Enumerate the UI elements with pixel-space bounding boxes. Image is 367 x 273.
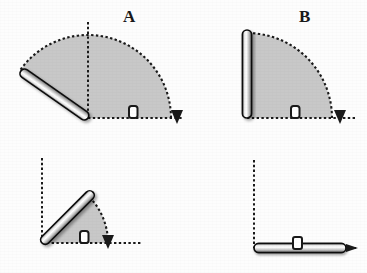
- angle-marker: [129, 106, 138, 118]
- axis-arrowhead: [346, 244, 358, 252]
- angle-marker: [80, 231, 89, 243]
- swept-sector: [247, 33, 332, 118]
- figure-canvas: A: [0, 0, 367, 273]
- panel-a: A: [0, 0, 200, 140]
- panel-b-drawing: [190, 0, 367, 140]
- panel-b: B: [190, 0, 367, 140]
- rod: [242, 30, 251, 118]
- angle-marker: [293, 237, 302, 249]
- panel-label-a: A: [123, 8, 135, 25]
- panel-d-drawing: [190, 140, 367, 273]
- angle-marker: [291, 106, 300, 118]
- panel-d: D: [190, 140, 367, 273]
- panel-label-b: B: [299, 8, 310, 25]
- panel-c: C: [0, 140, 190, 273]
- panel-c-drawing: [0, 140, 190, 273]
- panel-a-drawing: [0, 0, 200, 140]
- swept-sector: [20, 35, 171, 118]
